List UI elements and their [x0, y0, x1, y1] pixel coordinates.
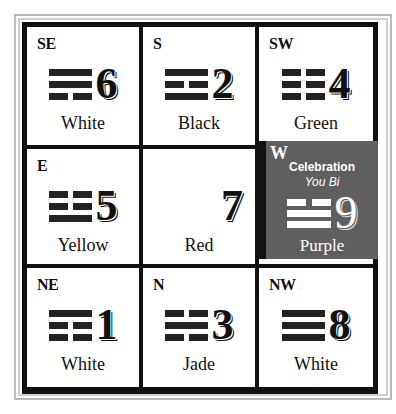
cell-center[interactable]: 7 Red: [143, 149, 255, 264]
trigram-icon: [49, 191, 92, 222]
color-label: Black: [143, 113, 255, 134]
cell-w-highlighted[interactable]: W Celebration You Bi 9 Purple: [256, 141, 378, 259]
color-label: White: [259, 354, 373, 375]
star-number: 6: [96, 63, 118, 105]
color-label: White: [27, 113, 139, 134]
star-number: 9: [335, 192, 358, 234]
cell-nw[interactable]: NW 8 White: [259, 268, 373, 387]
cell-subtitle: You Bi: [266, 175, 378, 189]
star-number: 2: [212, 63, 234, 105]
star-number: 1: [96, 304, 118, 346]
direction-label: NW: [269, 276, 296, 294]
color-label: Green: [259, 113, 373, 134]
direction-label: NE: [37, 276, 58, 294]
color-label: Red: [143, 235, 255, 256]
cell-e[interactable]: E 5 Yellow: [27, 149, 139, 264]
cell-s[interactable]: S 2 Black: [143, 27, 255, 145]
trigram-icon: [165, 310, 208, 341]
trigram-icon: [49, 310, 92, 341]
trigram-icon: [282, 69, 325, 100]
trigram-icon: [287, 199, 331, 228]
cell-se[interactable]: SE 6 White: [27, 27, 139, 145]
color-label: Jade: [143, 354, 255, 375]
direction-label: S: [153, 35, 161, 53]
star-number: 3: [212, 304, 234, 346]
direction-label: E: [37, 157, 47, 175]
color-label: White: [27, 354, 139, 375]
direction-label: SE: [37, 35, 56, 53]
star-number: 8: [329, 304, 351, 346]
direction-label: N: [153, 276, 164, 294]
direction-label: SW: [269, 35, 293, 53]
cell-sw[interactable]: SW 4 Green: [259, 27, 373, 145]
trigram-icon: [165, 69, 208, 100]
star-number: 7: [221, 185, 243, 227]
cell-ne[interactable]: NE 1 White: [27, 268, 139, 387]
star-number: 5: [96, 185, 118, 227]
star-number: 4: [329, 63, 351, 105]
color-label: Purple: [266, 236, 378, 256]
color-label: Yellow: [27, 235, 139, 256]
trigram-icon: [49, 69, 92, 100]
cell-n[interactable]: N 3 Jade: [143, 268, 255, 387]
cell-title: Celebration: [266, 160, 378, 174]
trigram-icon: [282, 310, 325, 341]
